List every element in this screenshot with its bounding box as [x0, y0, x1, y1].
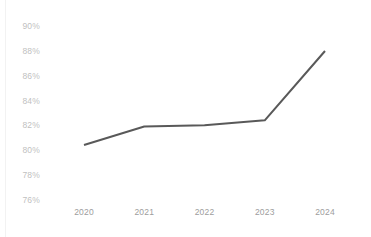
series-line-group: [0, 0, 371, 237]
series-line: [84, 51, 325, 145]
line-chart: 90%88%86%84%82%80%78%76% 202020212022202…: [0, 0, 371, 237]
